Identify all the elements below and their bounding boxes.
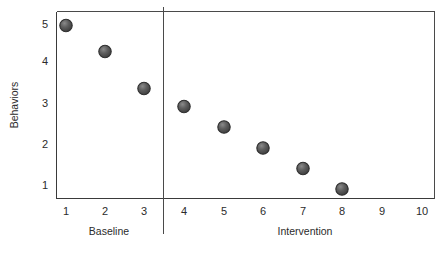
x-tick-label: 9 (379, 205, 385, 217)
data-point[interactable] (336, 183, 348, 195)
x-tick-label: 10 (416, 205, 428, 217)
x-tick-label: 2 (102, 205, 108, 217)
x-tick-label: 6 (260, 205, 266, 217)
data-point[interactable] (297, 162, 309, 174)
y-tick-label: 5 (42, 18, 48, 30)
y-tick-label: 4 (42, 55, 48, 67)
data-point[interactable] (99, 45, 111, 57)
x-tick-label: 4 (181, 205, 187, 217)
phase-label-intervention: Intervention (278, 225, 333, 237)
x-tick-label: 3 (141, 205, 147, 217)
data-point[interactable] (178, 100, 190, 112)
data-point[interactable] (257, 142, 269, 154)
chart-container: 5 4 3 2 1 Behaviors 1 2 3 4 5 6 7 8 9 10… (0, 0, 442, 253)
data-point[interactable] (60, 19, 72, 31)
y-tick-label: 2 (42, 138, 48, 150)
x-tick-label: 7 (300, 205, 306, 217)
behaviors-scatter-chart: 5 4 3 2 1 Behaviors 1 2 3 4 5 6 7 8 9 10… (0, 0, 442, 253)
x-tick-label: 1 (63, 205, 69, 217)
phase-label-baseline: Baseline (89, 225, 129, 237)
y-axis-title: Behaviors (8, 82, 20, 129)
x-tick-label: 8 (339, 205, 345, 217)
x-tick-label: 5 (221, 205, 227, 217)
y-tick-label: 1 (42, 179, 48, 191)
y-tick-label: 3 (42, 97, 48, 109)
data-point[interactable] (218, 121, 230, 133)
data-point[interactable] (138, 82, 150, 94)
